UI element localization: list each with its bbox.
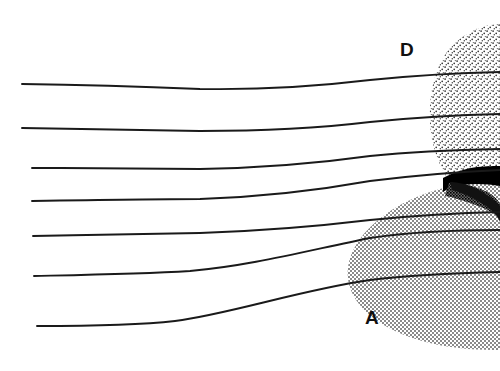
- region-label-d: D: [400, 39, 414, 60]
- streamline-flow-diagram: D A: [0, 0, 500, 371]
- region-label-a: A: [365, 307, 379, 328]
- figure-canvas: D A: [0, 0, 500, 371]
